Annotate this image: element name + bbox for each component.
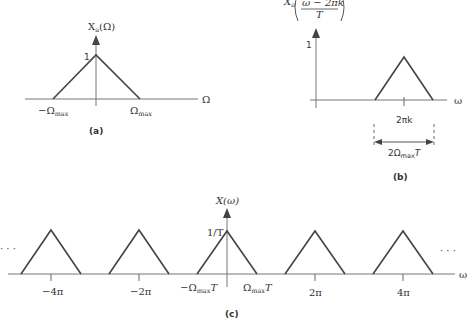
panel-b-arrow-right-icon (426, 139, 434, 145)
panel-c-y-label: X(ω) (215, 195, 239, 206)
panel-c-right-foot-label: ΩmaxT (243, 282, 273, 295)
svg-text:ω − 2πk: ω − 2πk (302, 0, 344, 8)
panel-b: Xa ω − 2πk T 1 ω 2πk 2ΩmaxT (b) (283, 0, 462, 182)
panel-c-triangle-4pi (373, 231, 433, 274)
panel-a-x-label: Ω (202, 94, 210, 105)
panel-b-triangle (375, 57, 433, 100)
panel-c-x-label: ω (459, 269, 467, 280)
panel-b-y-arrow-icon (312, 28, 320, 38)
panel-c-caption: (c) (225, 309, 239, 319)
panel-a-peak-label: 1 (84, 52, 90, 62)
panel-c-tick-label-2pi: 2π (309, 287, 322, 298)
sampling-spectrum-figure: Xa(Ω) 1 Ω −Ωmax Ωmax (a) Xa ω − 2πk T 1 … (0, 0, 469, 333)
panel-c-left-foot-label: −ΩmaxT (180, 282, 218, 295)
panel-b-y-label: Xa ω − 2πk T (283, 0, 344, 21)
panel-a: Xa(Ω) 1 Ω −Ωmax Ωmax (a) (25, 21, 210, 136)
panel-a-y-arrow-icon (92, 35, 100, 45)
panel-c-peak-label: 1/T (207, 227, 224, 238)
panel-c-tick-label-neg2pi: −2π (130, 286, 152, 297)
panel-c-triangle-neg2pi (109, 230, 169, 274)
panel-c-ellipsis-right: · · · (440, 245, 456, 256)
panel-b-width-label: 2ΩmaxT (388, 148, 422, 160)
panel-c-triangle-neg4pi (21, 230, 81, 274)
panel-a-left-foot-label: −Ωmax (38, 105, 69, 118)
panel-b-arrow-left-icon (374, 139, 382, 145)
panel-c: X(ω) 1/T · · · · · · ω −4π −2π 2π 4π −Ωm… (0, 195, 467, 319)
panel-a-caption: (a) (89, 126, 103, 136)
panel-b-x-label: ω (454, 95, 462, 106)
panel-b-center-label: 2πk (396, 115, 413, 125)
panel-b-caption: (b) (393, 172, 408, 182)
panel-a-right-foot-label: Ωmax (130, 105, 152, 118)
svg-text:T: T (316, 9, 324, 20)
panel-c-tick-label-neg4pi: −4π (42, 286, 64, 297)
panel-c-ellipsis-left: · · · (0, 243, 16, 254)
svg-text:Xa: Xa (283, 0, 295, 9)
panel-c-triangle-2pi (285, 231, 345, 274)
panel-c-tick-label-4pi: 4π (397, 287, 410, 298)
panel-c-y-arrow-icon (223, 208, 231, 218)
panel-a-y-label: Xa(Ω) (88, 21, 115, 34)
panel-b-peak-label: 1 (306, 40, 312, 50)
